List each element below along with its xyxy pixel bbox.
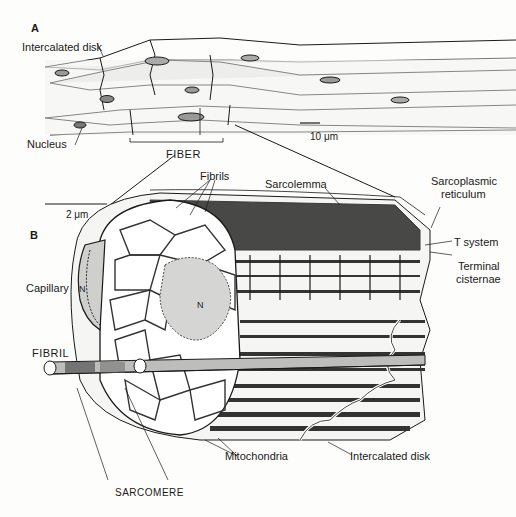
- panel-b-letter: B: [30, 229, 38, 241]
- label-fiber: FIBER: [166, 148, 201, 160]
- label-terminal-cisternae-2: cisternae: [456, 273, 501, 285]
- label-t-system: T system: [454, 236, 498, 248]
- label-nucleus-marker-capillary: N: [79, 283, 86, 295]
- label-mitochondria: Mitochondria: [225, 450, 288, 462]
- label-scale-10um: 10 μm: [310, 131, 338, 143]
- panel-a-letter: A: [31, 22, 39, 34]
- label-capillary: Capillary: [26, 282, 69, 294]
- label-sarcoplasmic-reticulum-1: Sarcoplasmic: [431, 175, 497, 187]
- panel-b-block: [44, 180, 452, 480]
- label-intercalated-disk-b: Intercalated disk: [350, 450, 430, 462]
- label-nucleus: Nucleus: [27, 138, 67, 150]
- label-sarcolemma: Sarcolemma: [265, 178, 327, 190]
- label-sarcomere: SARCOMERE: [115, 487, 184, 499]
- muscle-illustration: [0, 0, 516, 517]
- label-intercalated-disk-a: Intercalated disk: [22, 41, 102, 53]
- label-terminal-cisternae-1: Terminal: [458, 260, 500, 272]
- label-fibril: FIBRIL: [32, 347, 69, 359]
- label-nucleus-marker-fiber: N: [197, 299, 204, 311]
- label-sarcoplasmic-reticulum-2: reticulum: [441, 188, 486, 200]
- label-scale-2um: 2 μm: [66, 209, 88, 221]
- label-fibrils: Fibrils: [200, 170, 229, 182]
